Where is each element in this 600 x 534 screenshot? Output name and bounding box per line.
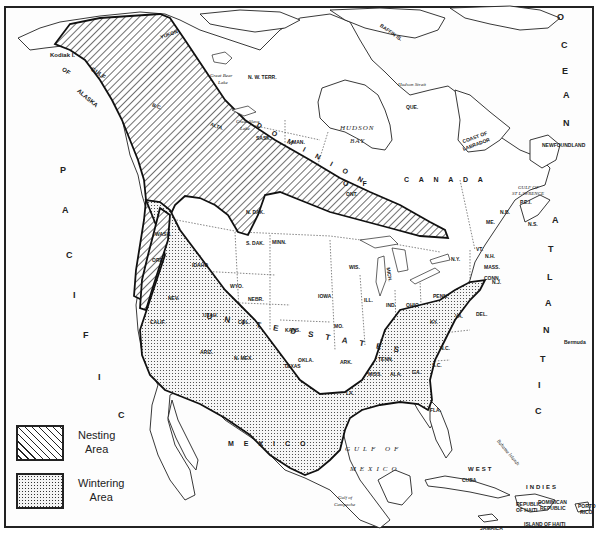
label-indies: INDIES (526, 484, 558, 490)
label-me: ME. (486, 220, 495, 225)
label-nc: N.C. (440, 346, 450, 351)
label-la: LA. (346, 391, 354, 396)
label-atlantic-t2: T (540, 354, 546, 364)
label-gulf-st-lawrence: GULF OF (518, 185, 539, 190)
label-bermuda: Bermuda (564, 340, 586, 345)
nesting-swatch-icon (16, 425, 64, 461)
label-ocean-a: A (563, 90, 570, 100)
label-ga: GA. (412, 370, 421, 375)
label-ala: ALA. (390, 372, 402, 377)
label-atlantic-c: C (535, 406, 542, 416)
label-rico: RICO (580, 510, 593, 515)
label-kodiak: Kodiak I. (50, 52, 75, 58)
label-st-lawrence: ST LAWRENCE (512, 191, 544, 196)
label-great-bear-lake: Great Bear (210, 73, 232, 78)
label-pacific-i2: I (98, 372, 101, 382)
label-mass: MASS. (484, 265, 500, 270)
label-gulf-of-mexico-2: MEXICO (350, 466, 400, 473)
label-sc: S.C. (432, 363, 442, 368)
label-ill: ILL. (364, 298, 373, 303)
label-atlantic-t: T (548, 244, 554, 254)
map-legend: Nesting Area Wintering Area (16, 425, 146, 521)
wintering-swatch-icon (16, 473, 64, 509)
label-campeche: Campeche (334, 502, 355, 507)
label-sask: SASK. (256, 136, 271, 141)
label-ocean-o: O (557, 12, 564, 22)
legend-wintering-line2: Area (78, 491, 124, 505)
label-ky: KY. (430, 320, 438, 325)
label-atlantic-l: L (547, 272, 553, 282)
label-ark: ARK. (340, 360, 352, 365)
label-iowa: IOWA (318, 294, 331, 299)
label-ns: N.S. (528, 222, 538, 227)
label-great-slave-lake-2: Lake (240, 126, 250, 131)
label-del: DEL. (476, 312, 487, 317)
legend-wintering-line1: Wintering (78, 477, 124, 491)
yucatan (378, 470, 412, 505)
label-que: QUE. (406, 105, 418, 110)
label-gulf-of-campeche: Gulf of (338, 495, 352, 500)
label-pacific-c: C (66, 250, 73, 260)
legend-label-nesting: Nesting Area (78, 429, 115, 457)
label-nb: N.B. (500, 210, 510, 215)
label-atlantic-n: N (543, 325, 550, 335)
label-tenn: TENN. (378, 357, 393, 362)
jamaica (478, 514, 498, 522)
label-nj: N.J. (492, 280, 501, 285)
label-ohio: OHIO (406, 303, 419, 308)
label-gulf-of-mexico-1: GULF OF (345, 446, 402, 453)
label-nebr: NEBR. (248, 297, 264, 302)
label-miss: MISS. (368, 372, 382, 377)
label-ny: N.Y. (451, 257, 460, 262)
label-wis: WIS. (349, 265, 360, 270)
legend-nesting-line1: Nesting (78, 429, 115, 443)
label-great-slave-lake: Great Slave (236, 119, 260, 124)
label-bay: BAY (350, 138, 365, 145)
label-atlantic-a2: A (545, 298, 552, 308)
label-penn: PENN. (433, 294, 448, 299)
label-mexico: M E X I C O (228, 440, 309, 447)
label-nh: N.H. (485, 254, 495, 259)
label-hudson: HUDSON (340, 125, 374, 132)
label-idaho: IDAHO (192, 263, 208, 268)
label-wash: WASH. (155, 232, 171, 237)
label-of-dominion: O F (343, 180, 373, 187)
label-va: VA. (455, 314, 463, 319)
label-hudson-strait: Hudson Strait (398, 82, 426, 87)
label-wyo: WYO. (230, 284, 243, 289)
label-newfoundland: NEWFOUNDLAND (542, 143, 585, 148)
legend-nesting-line2: Area (78, 443, 115, 457)
newfoundland (530, 135, 560, 168)
label-n-mex: N. MEX. (234, 356, 253, 361)
label-ore: ORE. (152, 258, 164, 263)
label-vt: VT. (476, 247, 483, 252)
label-pei: P.E.I. (520, 200, 532, 205)
label-dominican-2: REPUBLIC (540, 506, 566, 511)
label-s-dak: S. DAK. (246, 241, 264, 246)
label-mo: MO. (334, 324, 343, 329)
label-fla: FLA. (430, 408, 441, 413)
label-atlantic-a: A (552, 215, 559, 225)
label-minn: MINN. (272, 240, 286, 245)
legend-item-nesting: Nesting Area (16, 425, 146, 461)
label-pacific-a: A (62, 205, 69, 215)
label-ocean-e: E (562, 66, 568, 76)
label-haiti-2: OF HAITI (516, 508, 537, 513)
label-pacific-c2: C (118, 410, 125, 420)
label-nev: NEV. (168, 296, 179, 301)
label-mich: MICH. (385, 267, 392, 282)
label-canada: C A N A D A (404, 176, 487, 183)
label-jamaica: JAMAICA (480, 526, 503, 531)
label-cuba: CUBA (462, 478, 476, 483)
label-atlantic-i: I (538, 380, 541, 390)
label-ocean-n: N (563, 118, 570, 128)
label-ocean-c: C (561, 40, 568, 50)
label-west: WEST (468, 466, 493, 472)
label-island-of-haiti: ISLAND OF HAITI (524, 522, 565, 527)
legend-label-wintering: Wintering Area (78, 477, 124, 505)
label-n-dak: N. DAK. (246, 210, 265, 215)
label-ont: ONT. (346, 192, 357, 197)
label-nw-terr: N. W. TERR. (248, 75, 277, 80)
label-pacific-f: F (83, 330, 89, 340)
label-ariz: ARIZ. (200, 350, 213, 355)
